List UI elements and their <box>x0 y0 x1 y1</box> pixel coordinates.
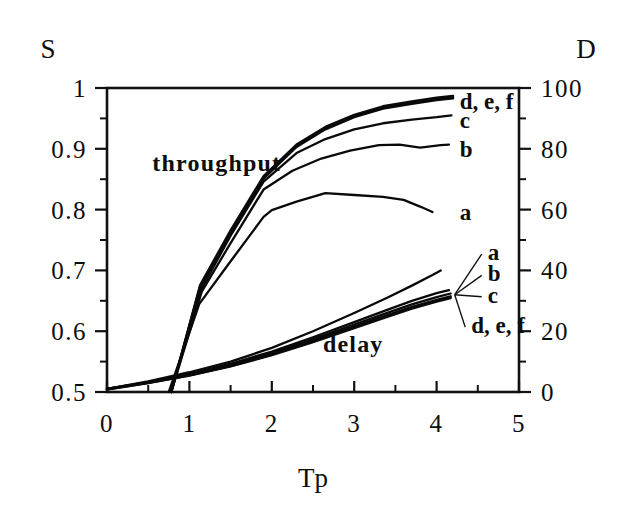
y2-axis-tick-label: 0 <box>541 379 555 406</box>
y2-axis-tick-label: 20 <box>541 318 569 345</box>
series-end-label-throughput: c <box>460 108 470 133</box>
x-axis-title: Tp <box>298 463 328 493</box>
series-end-label-delay: d, e, f <box>471 313 525 338</box>
series-end-label-delay: c <box>488 283 498 308</box>
y2-axis-tick-label: 80 <box>541 136 569 163</box>
x-axis-tick-label: 1 <box>182 410 196 437</box>
series-end-label-throughput: a <box>460 200 472 225</box>
throughput-delay-line-chart: S D Tp 0123450.50.60.70.80.9102040608010… <box>0 0 635 507</box>
x-axis-tick-label: 2 <box>265 410 279 437</box>
x-axis-tick-label: 4 <box>430 410 444 437</box>
y2-axis-tick-label: 100 <box>541 75 583 102</box>
y-axis-tick-label: 0.6 <box>51 318 87 345</box>
y-axis-tick-label: 1 <box>73 75 87 102</box>
y-axis-tick-label: 0.9 <box>51 136 87 163</box>
y-axis-tick-label: 0.7 <box>51 257 87 284</box>
x-axis-tick-label: 5 <box>512 410 526 437</box>
annotation-throughput: throughput <box>152 150 281 176</box>
right-axis-title: D <box>576 34 596 64</box>
y2-axis-tick-label: 60 <box>541 197 569 224</box>
y-axis-tick-label: 0.8 <box>51 197 87 224</box>
x-axis-tick-label: 3 <box>347 410 361 437</box>
y2-axis-tick-label: 40 <box>541 257 569 284</box>
chart-background <box>0 0 635 507</box>
x-axis-tick-label: 0 <box>100 410 114 437</box>
y-axis-tick-label: 0.5 <box>51 379 87 406</box>
series-end-label-throughput: b <box>460 137 473 162</box>
chart-figure: S D Tp 0123450.50.60.70.80.9102040608010… <box>0 0 635 507</box>
annotation-delay: delay <box>323 331 384 357</box>
left-axis-title: S <box>40 34 55 64</box>
